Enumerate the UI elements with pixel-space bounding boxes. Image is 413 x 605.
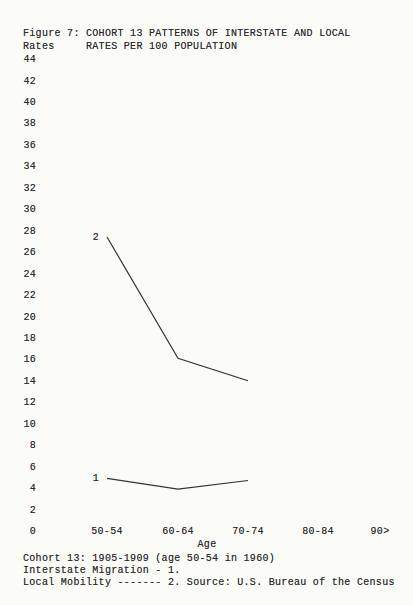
x-tick-80-84: 80-84 (288, 526, 348, 538)
figure-7-chart-page: Figure 7: COHORT 13 PATTERNS OF INTERSTA… (0, 0, 413, 605)
series-label-1: 1 (93, 473, 99, 484)
x-tick-50-54: 50-54 (77, 526, 137, 538)
footnote-legend-interstate: Interstate Migration - 1. (23, 565, 181, 577)
y-tick-14: 14 (0, 376, 36, 388)
x-axis-title: Age (187, 539, 227, 551)
line-plot: 21 (0, 0, 413, 605)
y-tick-28: 28 (0, 226, 36, 238)
y-tick-30: 30 (0, 204, 36, 216)
figure-title-line2: RATES PER 100 POPULATION (86, 41, 237, 53)
y-tick-44: 44 (0, 54, 36, 66)
y-tick-2: 2 (0, 505, 36, 517)
series-line-interstate-migration (107, 478, 248, 489)
y-tick-18: 18 (0, 333, 36, 345)
y-axis-title: Rates (23, 41, 55, 53)
y-tick-6: 6 (0, 462, 36, 474)
footnote-legend-local-source: Local Mobility ------- 2. Source: U.S. B… (23, 577, 395, 589)
y-tick-36: 36 (0, 140, 36, 152)
x-tick-60-64: 60-64 (148, 526, 208, 538)
y-tick-12: 12 (0, 397, 36, 409)
y-tick-42: 42 (0, 76, 36, 88)
x-tick-70-74: 70-74 (218, 526, 278, 538)
y-tick-10: 10 (0, 419, 36, 431)
series-line-local-mobility (107, 237, 248, 381)
y-tick-24: 24 (0, 269, 36, 281)
y-tick-16: 16 (0, 354, 36, 366)
footnote-cohort: Cohort 13: 1905-1909 (age 50-54 in 1960) (23, 553, 275, 565)
y-tick-40: 40 (0, 97, 36, 109)
series-label-2: 2 (93, 232, 99, 243)
y-tick-22: 22 (0, 290, 36, 302)
y-tick-26: 26 (0, 247, 36, 259)
y-tick-34: 34 (0, 161, 36, 173)
y-tick-32: 32 (0, 183, 36, 195)
y-tick-38: 38 (0, 118, 36, 130)
y-tick-0: 0 (0, 526, 36, 538)
y-tick-4: 4 (0, 483, 36, 495)
x-tick-90-: 90> (350, 526, 410, 538)
y-tick-20: 20 (0, 312, 36, 324)
y-tick-8: 8 (0, 440, 36, 452)
figure-title-line1: Figure 7: COHORT 13 PATTERNS OF INTERSTA… (23, 28, 351, 40)
